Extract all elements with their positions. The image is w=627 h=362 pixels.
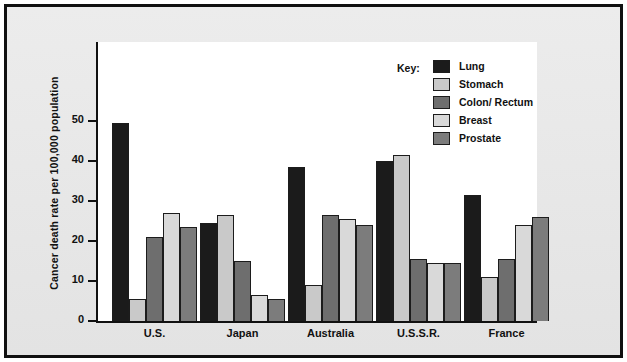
bar <box>481 277 498 321</box>
x-axis-category-label: France <box>444 327 569 339</box>
bar <box>251 295 268 321</box>
bar <box>163 213 180 321</box>
legend-entry-label: Prostate <box>459 132 501 144</box>
legend-swatch <box>433 60 450 73</box>
bar <box>498 259 515 321</box>
legend-entry: Lung <box>433 57 533 75</box>
bar-group <box>200 42 285 321</box>
legend-swatch <box>433 96 450 109</box>
y-axis-tick-label: 20 <box>58 233 84 245</box>
y-axis-tick-label: 30 <box>58 193 84 205</box>
legend-entry: Stomach <box>433 75 533 93</box>
bar <box>410 259 427 321</box>
bar-group <box>112 42 197 321</box>
bar <box>288 167 305 321</box>
bar <box>268 299 285 321</box>
bar <box>515 225 532 321</box>
y-axis-tick <box>88 280 97 282</box>
legend-entry: Prostate <box>433 129 533 147</box>
bar <box>339 219 356 321</box>
figure-frame: Cancer death rate per 100,000 population… <box>4 4 623 358</box>
legend-entry-label: Colon/ Rectum <box>459 96 533 108</box>
legend: Key: LungStomachColon/ RectumBreastProst… <box>397 57 533 147</box>
bar <box>444 263 461 321</box>
bar <box>393 155 410 321</box>
legend-entry-label: Lung <box>459 60 485 72</box>
y-axis-tick <box>88 320 97 322</box>
y-axis-tick <box>88 240 97 242</box>
x-axis-line <box>96 321 537 323</box>
bar <box>217 215 234 321</box>
legend-swatch <box>433 114 450 127</box>
bar <box>464 195 481 321</box>
bar <box>305 285 322 321</box>
bar <box>200 223 217 321</box>
bar <box>427 263 444 321</box>
legend-entry: Colon/ Rectum <box>433 93 533 111</box>
bar <box>129 299 146 321</box>
y-axis-tick-label: 40 <box>58 153 84 165</box>
bar <box>146 237 163 321</box>
y-axis-tick-label: 10 <box>58 273 84 285</box>
legend-entry-label: Stomach <box>459 78 503 90</box>
bar <box>180 227 197 321</box>
legend-swatch <box>433 78 450 91</box>
bar <box>532 217 549 321</box>
bar <box>356 225 373 321</box>
legend-entry-label: Breast <box>459 114 492 126</box>
y-axis-tick <box>88 120 97 122</box>
y-axis-tick <box>88 200 97 202</box>
bar <box>376 161 393 321</box>
bar <box>234 261 251 321</box>
y-axis-tick <box>88 160 97 162</box>
bar <box>322 215 339 321</box>
y-axis-tick-label: 0 <box>58 313 84 325</box>
bar <box>112 123 129 321</box>
bar-group <box>288 42 373 321</box>
chart-screenshot: Cancer death rate per 100,000 population… <box>0 0 627 362</box>
y-axis-tick-label: 50 <box>58 113 84 125</box>
legend-title: Key: <box>397 62 420 74</box>
legend-swatch <box>433 132 450 145</box>
legend-entry: Breast <box>433 111 533 129</box>
